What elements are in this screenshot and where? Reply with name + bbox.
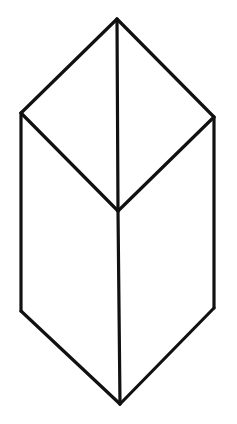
edge-center-bottom-vertical — [118, 211, 120, 404]
edge-top-right — [117, 19, 214, 117]
edge-left-center — [21, 113, 118, 211]
edge-top-left — [21, 19, 117, 113]
prism-line-drawing — [0, 0, 237, 424]
edge-top-center-vertical — [117, 19, 118, 211]
edge-lower-left-bottom — [21, 311, 120, 404]
edge-lower-right-bottom — [120, 308, 214, 404]
edge-right-center — [118, 117, 214, 211]
